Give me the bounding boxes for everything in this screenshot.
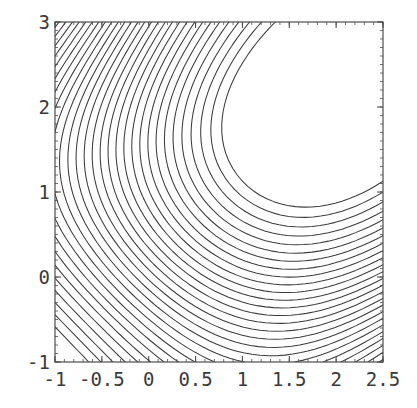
contour-line [55,22,59,27]
contour-line [55,315,101,362]
contour-line [55,278,138,362]
x-axis-tick-label: 1.5 [272,370,306,389]
x-axis-tick-label: 0 [143,370,154,389]
contour-line [108,22,383,316]
contour-plot-figure: -1-0.500.511.522.5 -10123 [0,0,417,408]
x-axis-tick-label: 2.5 [366,370,400,389]
contour-line [182,22,383,245]
contour-line [100,22,383,323]
x-axis-tick-label: -1 [44,370,67,389]
x-axis-tick-label: 1 [237,370,248,389]
contour-line [140,22,383,285]
x-axis-tick-label: -0.5 [79,370,125,389]
contour-line [60,22,245,362]
contour-line [355,345,383,362]
contour-lines [55,22,383,362]
contour-line [55,265,150,362]
contour-line [55,303,113,362]
axis-minor-ticks [55,22,383,362]
y-axis-tick-label: 0 [39,268,50,287]
contour-line [173,22,383,253]
y-axis-tick-label: 3 [39,13,50,32]
y-axis-tick-label: 1 [39,183,50,202]
axis-major-ticks [55,22,383,362]
plot-frame [55,22,383,362]
contour-line [191,22,383,236]
contour-line [116,22,383,308]
y-axis-tick-label: -1 [27,353,50,372]
contour-line [55,22,79,56]
x-axis-tick-label: 2 [330,370,341,389]
contour-line [211,22,383,217]
x-axis-tick-label: 0.5 [178,370,212,389]
contour-line [55,193,215,362]
contour-plot-canvas [0,0,417,408]
contour-line [222,22,383,207]
y-axis-tick-label: 2 [39,98,50,117]
